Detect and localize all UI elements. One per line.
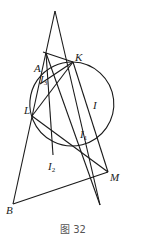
geometry-figure: A I3 K L I I1 I2 M B 图 32 — [0, 0, 142, 242]
label-B: B — [6, 204, 13, 216]
label-K: K — [74, 51, 83, 63]
label-L: L — [23, 104, 30, 116]
side-apex-B — [13, 11, 55, 204]
segment-I-M — [73, 62, 108, 172]
segment-L-M — [32, 116, 108, 172]
segment-P-long — [46, 53, 100, 205]
label-I1: I1 — [79, 128, 88, 142]
label-I2: I2 — [47, 160, 56, 174]
label-M: M — [109, 171, 120, 183]
label-I3: I3 — [39, 73, 48, 87]
figure-caption: 图 32 — [60, 224, 86, 235]
label-I: I — [92, 99, 98, 111]
